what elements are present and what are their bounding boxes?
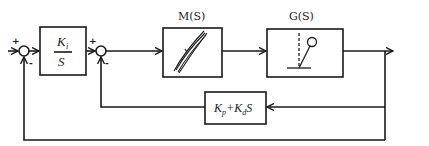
feedback-expression: Kp+KdS [213,101,252,117]
integrator-block: K i S [40,27,86,75]
actuator-block: M(S) [163,10,222,77]
outer-plus-sign: + [12,36,20,46]
plant-block: G(S) [267,10,343,77]
plant-label: G(S) [289,10,314,23]
actuator-label: M(S) [178,10,205,23]
inner-summing-junction: + - [89,36,109,68]
integrator-denominator: S [58,54,65,69]
outer-minus-sign: - [29,58,33,68]
feedback-block: Kp+KdS [205,92,266,124]
inner-minus-sign: - [105,58,109,68]
integrator-numerator-sub: i [66,42,68,51]
inner-plus-sign: + [89,36,97,46]
outer-summing-junction: + - [12,36,33,68]
block-diagram: + - K i S + - M(S) G(S) [0,0,429,146]
